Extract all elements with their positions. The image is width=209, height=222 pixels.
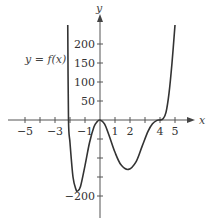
x-tick-label: 2 <box>127 125 134 138</box>
plot-area: xy−5−3−1124520015010050−200y = f(x) <box>0 0 209 222</box>
y-axis-arrow-icon <box>97 14 103 22</box>
x-tick-label: −5 <box>17 125 33 138</box>
x-axis-arrow-icon <box>187 117 195 123</box>
function-label: y = f(x) <box>24 53 66 66</box>
y-tick-label: 200 <box>74 38 95 51</box>
y-tick-label: −200 <box>65 190 95 203</box>
x-tick-label: −3 <box>47 125 63 138</box>
y-axis-label: y <box>95 2 103 15</box>
x-axis-label: x <box>199 114 206 127</box>
y-tick-label: 100 <box>74 76 95 89</box>
chart: xy−5−3−1124520015010050−200y = f(x) <box>0 0 209 222</box>
x-tick-label: 4 <box>157 125 164 138</box>
x-tick-label: 5 <box>172 125 179 138</box>
y-tick-label: 50 <box>81 95 95 108</box>
x-tick-label: 1 <box>112 125 119 138</box>
y-tick-label: 150 <box>74 57 95 70</box>
